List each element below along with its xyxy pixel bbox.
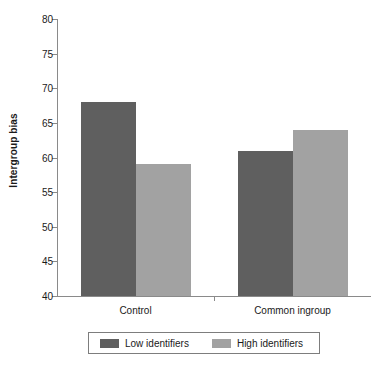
legend-label: Low identifiers <box>125 338 189 349</box>
legend-label: High identifiers <box>237 338 303 349</box>
y-axis-title-text: Intergroup bias <box>8 113 19 187</box>
y-axis-tick-label: 60 <box>42 152 53 163</box>
x-axis-category-label: Common ingroup <box>254 305 331 316</box>
y-axis-tick-label: 40 <box>42 291 53 302</box>
y-axis-tick-label: 65 <box>42 117 53 128</box>
x-axis-category-label: Control <box>119 305 151 316</box>
y-axis-tick-label: 50 <box>42 221 53 232</box>
legend-swatch <box>212 339 231 348</box>
y-axis-tick-label: 55 <box>42 187 53 198</box>
bar <box>136 164 191 296</box>
chart-legend: Low identifiersHigh identifiers <box>88 332 320 354</box>
bar <box>81 102 136 296</box>
legend-entry: Low identifiers <box>100 333 189 353</box>
y-axis-tick-label: 80 <box>42 14 53 25</box>
y-axis-title: Intergroup bias <box>4 0 22 300</box>
y-axis-tick-label: 45 <box>42 256 53 267</box>
bar-chart: Intergroup bias 807570656055504540 Contr… <box>0 0 381 366</box>
legend-swatch <box>100 339 119 348</box>
x-axis-tick-mark <box>214 296 215 301</box>
legend-entry: High identifiers <box>212 333 303 353</box>
plot-area: 807570656055504540 ControlCommon ingroup <box>57 19 371 296</box>
y-axis-line <box>57 19 58 297</box>
bar <box>293 130 348 296</box>
bar <box>238 151 293 296</box>
y-axis-tick-label: 75 <box>42 48 53 59</box>
y-axis-tick-label: 70 <box>42 83 53 94</box>
